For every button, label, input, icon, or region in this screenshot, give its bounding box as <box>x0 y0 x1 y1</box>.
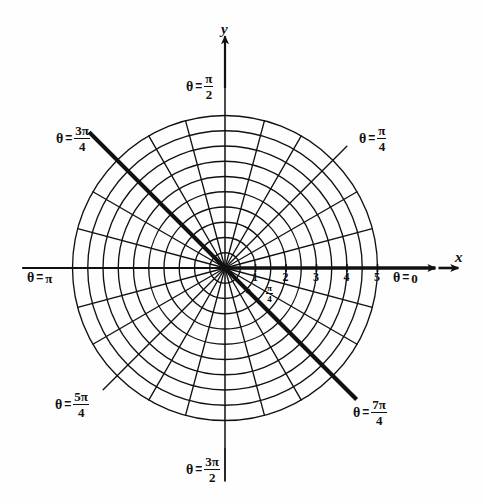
angle-label-theta-3pi-over-2: θ = 3π 2 <box>186 455 220 484</box>
fraction-denominator: 4 <box>376 413 383 427</box>
fraction: 3π 4 <box>74 124 90 153</box>
tick-label-1: 1 <box>252 270 258 285</box>
fraction-numerator: 7π <box>371 398 387 413</box>
fraction-numerator: π <box>377 124 386 139</box>
equals-sign: = <box>362 406 369 418</box>
center-angle-annotation: π 4 <box>266 283 273 304</box>
fraction-denominator: 2 <box>206 87 213 101</box>
tick-label-3: 3 <box>313 270 319 285</box>
fraction-denominator: 4 <box>78 405 85 419</box>
fraction: 7π 4 <box>371 398 387 427</box>
fraction: π 2 <box>204 72 213 101</box>
y-axis-label: y <box>221 22 228 37</box>
fraction-numerator: 5π <box>73 390 89 405</box>
tick-label-4: 4 <box>344 270 350 285</box>
angle-label-theta-5pi-over-4: θ = 5π 4 <box>55 390 89 419</box>
polar-grid-canvas <box>0 0 483 504</box>
equals-sign: = <box>65 132 72 144</box>
theta-symbol: θ <box>55 398 62 412</box>
angle-label-theta-3pi-over-4: θ = 3π 4 <box>56 124 90 153</box>
ray-225deg <box>103 268 225 390</box>
fraction-numerator: π <box>204 72 213 87</box>
angle-label-theta-7pi-over-4: θ = 7π 4 <box>353 398 387 427</box>
angle-value: π <box>45 272 52 285</box>
equals-sign: = <box>195 80 202 92</box>
fraction-numerator: 3π <box>74 124 90 139</box>
tick-label-2: 2 <box>283 270 289 285</box>
ray-195deg <box>78 268 225 307</box>
fraction: 5π 4 <box>73 390 89 419</box>
theta-symbol: θ <box>56 132 63 146</box>
equals-sign: = <box>368 132 375 144</box>
theta-symbol: θ <box>186 80 193 94</box>
angle-label-theta-0: θ = 0 <box>393 271 418 285</box>
theta-symbol: θ <box>186 463 193 477</box>
ray-30deg <box>225 192 357 268</box>
angle-label-theta-pi: θ = π <box>27 271 52 285</box>
fraction-denominator: 4 <box>379 139 386 153</box>
ray-210deg <box>93 268 225 344</box>
angle-label-theta-pi-over-2: θ = π 2 <box>186 72 213 101</box>
ray-45deg <box>225 146 347 268</box>
fraction: π 4 <box>377 124 386 153</box>
x-axis-label: x <box>455 250 463 265</box>
angle-value: 0 <box>411 272 418 285</box>
equals-sign: = <box>195 463 202 475</box>
equals-sign: = <box>64 398 71 410</box>
polar-grid-figure: y x θ = π 2 θ = π 4 θ = 3π 4 θ = π θ <box>0 0 483 504</box>
fraction-denominator: 2 <box>209 470 216 484</box>
ray-75deg <box>225 121 264 268</box>
angle-label-theta-pi-over-4: θ = π 4 <box>359 124 386 153</box>
ray-15deg <box>225 229 372 268</box>
fraction-denominator: 4 <box>266 294 273 304</box>
ray-255deg <box>186 268 225 415</box>
theta-symbol: θ <box>353 406 360 420</box>
equals-sign: = <box>402 271 409 283</box>
theta-symbol: θ <box>359 132 366 146</box>
fraction-numerator: 3π <box>204 455 220 470</box>
theta-symbol: θ <box>27 271 34 285</box>
theta-symbol: θ <box>393 271 400 285</box>
fraction-denominator: 4 <box>79 139 86 153</box>
fraction-numerator: π <box>266 283 273 294</box>
equals-sign: = <box>36 271 43 283</box>
ray-240deg <box>149 268 225 400</box>
fraction: 3π 2 <box>204 455 220 484</box>
tick-label-5: 5 <box>374 270 380 285</box>
ray-60deg <box>225 136 301 268</box>
